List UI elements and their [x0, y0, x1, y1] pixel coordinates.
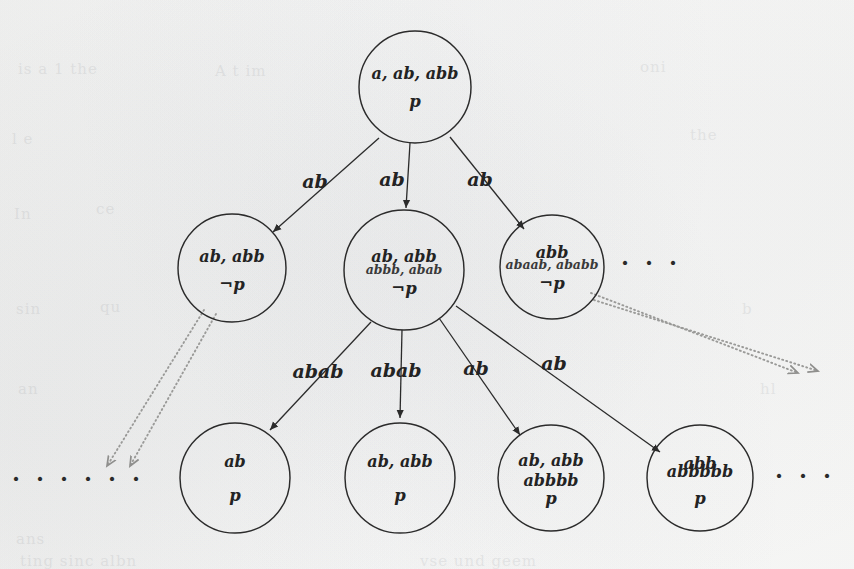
tree-edge-root-to-level2-1-label: ab	[302, 170, 328, 192]
tree-node-level3-3-line-2: p	[545, 489, 557, 508]
ellipsis-level3-left: · · · · · ·	[12, 465, 144, 492]
tree-edge-root-to-level2-2	[406, 143, 410, 208]
tree-node-level2-1-circle	[178, 214, 286, 322]
tree-node-level3-2: ab, abbp	[345, 423, 455, 533]
tree-node-level2-1-line-1: ¬p	[219, 275, 245, 294]
tree-node-level3-2-circle	[345, 423, 455, 533]
tree-node-level3-1-circle	[180, 423, 290, 533]
tree-node-level2-2-line-1: abbb, abab	[366, 262, 443, 277]
tree-edge-root-to-level2-2-label: ab	[379, 168, 405, 190]
tree-node-level2-1-line-0: ab, abb	[199, 247, 264, 266]
tree-edge-level2-2-to-level3-4	[456, 306, 660, 452]
tree-edge-root-to-level2-3-label: ab	[467, 168, 493, 190]
dotted-edge-level2-3-right-b	[594, 300, 818, 371]
tree-node-level3-4-line-2: p	[694, 489, 706, 508]
tree-node-root-line-1: p	[409, 92, 421, 111]
dotted-edge-level2-1-left-a	[107, 310, 204, 466]
tree-node-level3-4-line-1: abbbbb	[667, 462, 733, 481]
solid-edges-layer: ababababababababab	[270, 137, 660, 452]
tree-node-level2-2: ab, abbabbb, abab¬p	[344, 210, 464, 330]
nodes-layer: a, ab, abbpab, abb¬pab, abbabbb, abab¬pa…	[178, 31, 753, 533]
tree-node-level3-2-line-0: ab, abb	[367, 452, 432, 471]
tree-node-level3-4: abbabbbbbp	[647, 425, 753, 531]
tree-edge-level2-2-to-level3-1-label: abab	[292, 360, 343, 382]
tree-edge-level2-2-to-level3-3-label: ab	[463, 357, 489, 379]
tree-edge-level2-2-to-level3-2-label: abab	[370, 359, 421, 381]
tree-node-level2-3-line-1: abaab, ababb	[506, 257, 599, 272]
tree-edge-level2-2-to-level3-4-label: ab	[541, 352, 567, 374]
tree-node-level3-3-line-1: abbbb	[523, 471, 578, 490]
tree-node-level2-3: abbabaab, ababb¬p	[500, 215, 604, 319]
tree-node-level3-1-line-0: ab	[224, 452, 246, 471]
tree-node-level3-3: ab, abbabbbbp	[498, 425, 604, 531]
ellipsis-level3-right: · · ·	[775, 462, 835, 489]
tree-node-level2-3-line-2: ¬p	[539, 274, 565, 293]
dotted-edge-level2-1-left-b	[130, 314, 216, 466]
tree-node-level3-1: abp	[180, 423, 290, 533]
ellipsis-level2-right: · · ·	[621, 249, 681, 276]
figure-canvas: is a 1 theA t imonil etheIncesinqubanhla…	[0, 0, 854, 569]
tree-node-root-circle	[359, 31, 471, 143]
search-tree-graphic: ababababababababab a, ab, abbpab, abb¬pa…	[0, 0, 854, 569]
tree-node-root-line-0: a, ab, abb	[372, 64, 459, 83]
tree-node-level3-1-line-1: p	[229, 486, 241, 505]
tree-node-level2-2-line-2: ¬p	[391, 279, 417, 298]
dotted-edge-level2-3-right-a	[591, 293, 798, 373]
tree-node-level2-1: ab, abb¬p	[178, 214, 286, 322]
tree-node-root: a, ab, abbp	[359, 31, 471, 143]
tree-node-level3-2-line-1: p	[394, 486, 406, 505]
tree-node-level3-3-line-0: ab, abb	[518, 451, 583, 470]
